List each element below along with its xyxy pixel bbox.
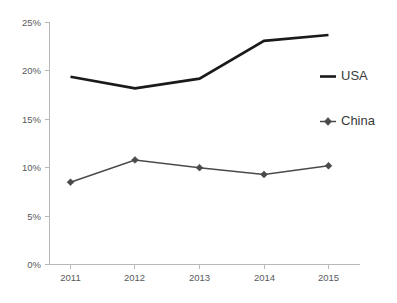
chart-canvas: 25% 20% 15% 10% 5% 0% 2011 2012 2013 201… xyxy=(0,0,397,303)
x-tick-label-2011: 2011 xyxy=(60,272,80,283)
y-tick-label-0: 0% xyxy=(27,259,41,270)
legend-label-china: China xyxy=(341,113,376,128)
y-tick-label-20: 20% xyxy=(22,65,42,76)
y-tick-label-25: 25% xyxy=(22,17,42,28)
y-tick-label-15: 15% xyxy=(22,114,42,125)
x-tick-label-2015: 2015 xyxy=(318,272,339,283)
legend-label-usa: USA xyxy=(341,68,368,83)
x-tick-label-2012: 2012 xyxy=(124,272,145,283)
y-tick-label-5: 5% xyxy=(27,211,41,222)
line-chart-figure: 25% 20% 15% 10% 5% 0% 2011 2012 2013 201… xyxy=(0,0,397,303)
x-tick-label-2014: 2014 xyxy=(254,272,275,283)
chart-background xyxy=(0,0,397,303)
y-tick-label-10: 10% xyxy=(22,162,42,173)
x-tick-label-2013: 2013 xyxy=(189,272,210,283)
